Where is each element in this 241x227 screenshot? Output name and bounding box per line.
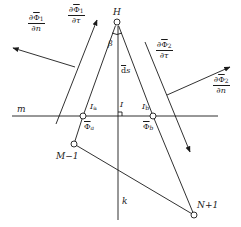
- label-h: H: [113, 8, 121, 17]
- segment-m1-n1: [74, 144, 194, 215]
- node-n1: [191, 212, 197, 218]
- ia-sub: a: [93, 104, 97, 111]
- label-ia: Ia: [90, 103, 97, 111]
- label-ib: Ib: [142, 103, 149, 111]
- node-h: [114, 19, 120, 25]
- dphi1-dn-numerator: ∂Φ1: [28, 14, 45, 24]
- ds-var: s: [126, 66, 130, 75]
- label-dphi1-dtau: ∂Φ1 ∂τ: [68, 6, 85, 25]
- right-angle-marker: [118, 112, 122, 116]
- dphi2-dn-numerator: ∂Φ2: [213, 76, 230, 86]
- dphi2-dtau-denominator: ∂τ: [156, 51, 173, 60]
- ib-sub: b: [145, 104, 149, 111]
- label-i: I: [120, 101, 123, 109]
- label-ds: ds: [121, 67, 130, 75]
- dphi2-dn-denominator: ∂n: [213, 86, 230, 95]
- boundary-element-diagram: [0, 0, 241, 227]
- label-dphi1-dn: ∂Φ1 ∂n: [28, 14, 45, 33]
- label-n1: N+1: [197, 201, 218, 210]
- phi-a-sub: a: [91, 124, 95, 131]
- node-ib: [150, 113, 156, 119]
- beta-angle-arc: [112, 33, 122, 35]
- label-k: k: [122, 197, 127, 206]
- segment-ia-m1: [74, 116, 83, 144]
- dphi1-dn-denominator: ∂n: [28, 24, 45, 33]
- normal-arrow-left: [13, 48, 75, 67]
- label-dphi2-dtau: ∂Φ2 ∂τ: [156, 41, 173, 60]
- node-ia: [80, 113, 86, 119]
- label-phi-b: Φb: [143, 123, 153, 131]
- node-m1: [71, 141, 77, 147]
- label-dphi2-dn: ∂Φ2 ∂n: [213, 76, 230, 95]
- segment-ib-n1: [153, 116, 194, 215]
- dphi1-dtau-denominator: ∂τ: [68, 16, 85, 25]
- phi-b-sub: b: [150, 124, 154, 131]
- label-m1: M−1: [56, 152, 78, 161]
- dphi1-dtau-numerator: ∂Φ1: [68, 6, 85, 16]
- label-phi-a: Φa: [84, 123, 94, 131]
- dphi2-dtau-numerator: ∂Φ2: [156, 41, 173, 51]
- label-beta: β: [108, 40, 113, 48]
- label-m: m: [17, 105, 26, 114]
